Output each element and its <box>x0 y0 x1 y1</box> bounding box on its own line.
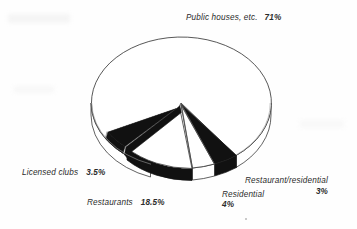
slice-label-restaurant-residential-name: Restaurant/residential <box>245 176 328 185</box>
pie-chart-figure: Public houses, etc.71% Licensed clubs3.5… <box>0 0 357 229</box>
scan-artifact-dot <box>245 218 247 220</box>
slice-label-licensed-clubs: Licensed clubs3.5% <box>22 168 105 178</box>
slice-label-restaurant-residential-pct: 3% <box>245 187 328 197</box>
slice-label-public-houses-name: Public houses, etc. <box>186 13 258 22</box>
slice-label-licensed-clubs-name: Licensed clubs <box>22 168 78 177</box>
scan-smudge-bottom-right <box>300 120 344 128</box>
slice-label-licensed-clubs-pct: 3.5% <box>86 168 105 177</box>
slice-label-public-houses: Public houses, etc.71% <box>186 13 281 23</box>
slice-label-restaurants-pct: 18.5% <box>141 198 165 207</box>
slice-label-restaurant-residential: Restaurant/residential3% <box>245 176 328 197</box>
slice-label-residential-pct: 4% <box>222 200 264 210</box>
scan-smudge-top-left <box>8 14 70 23</box>
scan-smudge-mid-left <box>14 86 54 93</box>
slice-label-public-houses-pct: 71% <box>265 13 282 22</box>
slice-label-restaurants-name: Restaurants <box>87 198 133 207</box>
slice-label-restaurants: Restaurants18.5% <box>87 198 165 208</box>
